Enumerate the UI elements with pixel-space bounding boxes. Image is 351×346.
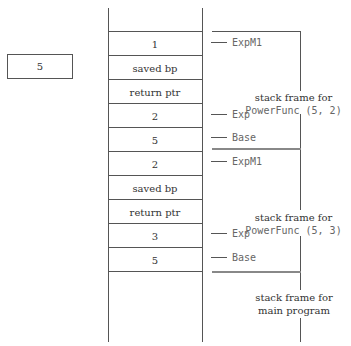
frame-title-text: stack frame for (236, 211, 351, 224)
variable-label-text: ExpM1 (232, 37, 262, 48)
stack-cell-text: 1 (152, 39, 158, 50)
variable-label: Base (211, 132, 256, 143)
frame-bracket-right (300, 273, 301, 290)
variable-label-text: Base (232, 132, 256, 143)
variable-label: Base (211, 252, 256, 263)
variable-label: ExpM1 (211, 37, 262, 48)
frame-bracket-right (300, 114, 301, 149)
stack-cell: return ptr (108, 80, 202, 104)
stack-cell: 2 (108, 152, 202, 176)
frame-bracket-right (300, 150, 301, 210)
stack-cell: 5 (108, 128, 202, 152)
stack-cell: 5 (108, 248, 202, 272)
pointer-dash-icon (211, 257, 227, 258)
frame-bracket-right (300, 31, 301, 91)
frame-bracket-right (300, 318, 301, 342)
stack-cell-text: saved bp (132, 63, 177, 74)
frame-bracket-top (212, 31, 301, 32)
stack-cell-text: 5 (152, 135, 158, 146)
frame-title-text: stack frame for (244, 291, 344, 304)
frame-call-text: PowerFunc (5, 3) (236, 224, 351, 237)
frame-title-powerfunc-5-3: stack frame for PowerFunc (5, 3) (236, 211, 351, 237)
stack-cell: saved bp (108, 176, 202, 200)
frame-bracket-right (300, 236, 301, 271)
variable-label-text: Base (232, 252, 256, 263)
stack-cell: 2 (108, 104, 202, 128)
stack-cell-text: return ptr (130, 207, 181, 218)
variable-label-text: ExpM1 (232, 156, 262, 167)
pointer-dash-icon (211, 161, 227, 162)
stack-cell: return ptr (108, 200, 202, 224)
frame-title-main-program: stack frame for main program (244, 291, 344, 317)
variable-value-box: 5 (7, 54, 73, 79)
stack-cell-text: 2 (152, 159, 158, 170)
stack-cell: saved bp (108, 56, 202, 80)
stack-cell: 3 (108, 224, 202, 248)
variable-label: ExpM1 (211, 156, 262, 167)
frame-call-text: main program (244, 304, 344, 317)
frame-separator (212, 271, 301, 273)
pointer-dash-icon (211, 233, 227, 234)
pointer-dash-icon (211, 137, 227, 138)
variable-value: 5 (37, 61, 43, 72)
frame-title-powerfunc-5-2: stack frame for PowerFunc (5, 2) (236, 91, 351, 117)
stack-cell-text: 2 (152, 111, 158, 122)
stack-cell: 1 (108, 32, 202, 56)
stack-cell-text: saved bp (132, 183, 177, 194)
stack-cell-text: 5 (152, 255, 158, 266)
pointer-dash-icon (211, 114, 227, 115)
pointer-dash-icon (211, 42, 227, 43)
frame-title-text: stack frame for (236, 91, 351, 104)
stack-cell-text: return ptr (130, 87, 181, 98)
stack-cell-text: 3 (152, 231, 158, 242)
frame-call-text: PowerFunc (5, 2) (236, 104, 351, 117)
frame-separator (212, 148, 301, 150)
